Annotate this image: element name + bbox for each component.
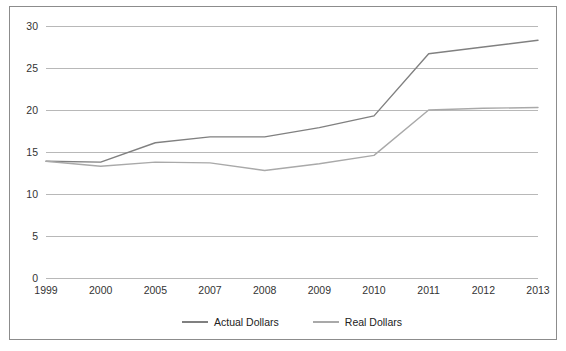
legend-item[interactable]: Actual Dollars xyxy=(182,317,279,328)
y-axis-tick-label: 10 xyxy=(26,189,38,200)
chart-container: 051015202530 199920002005200720082009201… xyxy=(0,0,566,351)
legend-label: Actual Dollars xyxy=(214,317,279,328)
series-line xyxy=(46,107,538,170)
y-axis-tick-label: 0 xyxy=(32,273,38,284)
x-axis-tick-labels: 1999200020052007200820092010201120122013 xyxy=(46,285,538,301)
y-axis-tick-labels: 051015202530 xyxy=(10,26,38,278)
legend-line-icon xyxy=(182,321,208,323)
y-axis-tick-label: 25 xyxy=(26,63,38,74)
x-axis-tick-label: 2012 xyxy=(472,285,495,296)
x-axis-tick-label: 2005 xyxy=(144,285,167,296)
series-lines xyxy=(46,26,538,278)
x-axis-tick-label: 2000 xyxy=(89,285,112,296)
x-axis-tick-label: 2008 xyxy=(253,285,276,296)
legend-item[interactable]: Real Dollars xyxy=(313,317,402,328)
chart-legend: Actual DollarsReal Dollars xyxy=(46,313,538,331)
y-axis-tick-label: 5 xyxy=(32,231,38,242)
y-axis-tick-label: 30 xyxy=(26,21,38,32)
legend-label: Real Dollars xyxy=(345,317,402,328)
x-axis-tick-label: 2011 xyxy=(417,285,440,296)
x-axis-tick-label: 2013 xyxy=(526,285,549,296)
y-axis-tick-label: 20 xyxy=(26,105,38,116)
gridline xyxy=(46,278,538,279)
x-axis-tick-label: 2010 xyxy=(362,285,385,296)
y-axis-tick-label: 15 xyxy=(26,147,38,158)
plot-area xyxy=(46,26,538,278)
series-line xyxy=(46,40,538,162)
legend-line-icon xyxy=(313,321,339,323)
x-axis-tick-label: 2009 xyxy=(308,285,331,296)
x-axis-tick-label: 2007 xyxy=(198,285,221,296)
x-axis-tick-label: 1999 xyxy=(34,285,57,296)
